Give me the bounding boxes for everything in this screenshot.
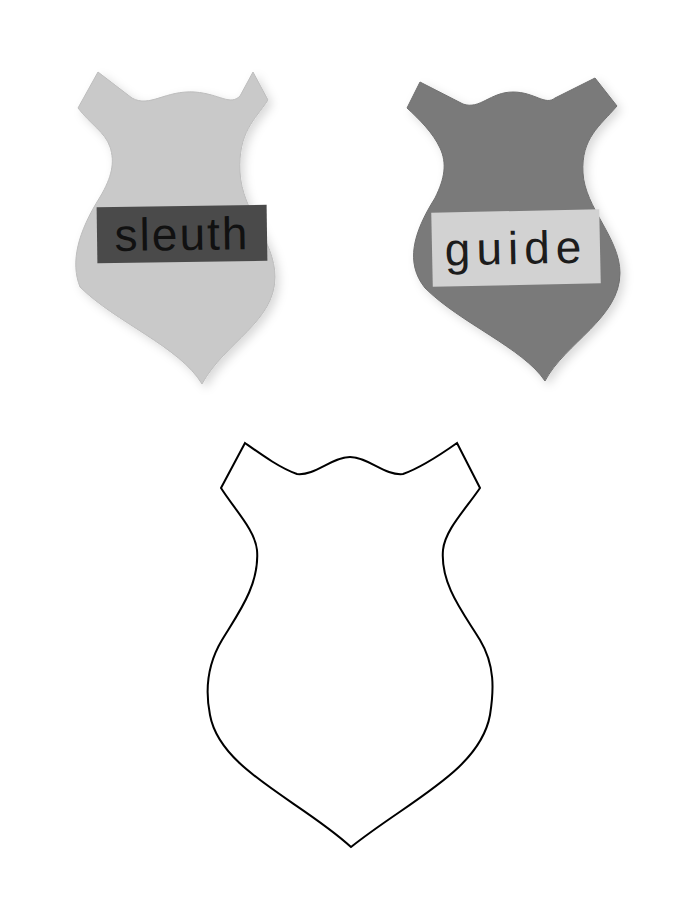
shield-outline-template xyxy=(0,0,673,900)
shield-outline-path xyxy=(208,443,493,847)
